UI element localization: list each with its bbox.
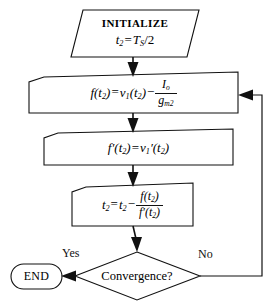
fp-rhs-close: )	[165, 140, 169, 155]
edge-f-to-fprime	[128, 113, 139, 133]
f-fraction: Iogm2	[155, 78, 176, 107]
f-frac-den-sub: m2	[164, 99, 173, 108]
node-update-t2-text: t2=t2−f(t2)f′(t2)	[72, 185, 193, 226]
u-equals: =	[110, 196, 119, 211]
u-frac-num-main: f(t	[140, 189, 151, 203]
f-frac-num-sub: o	[166, 84, 170, 93]
edge-decision-yes-end	[61, 271, 76, 282]
u-frac-den-close: )	[156, 205, 160, 219]
node-initialize-text: INITIALIZE t2=TS/2	[71, 12, 199, 54]
init-rhs: T	[133, 32, 140, 47]
f-rhs-v-tail: (t	[130, 84, 138, 99]
u-fraction: f(t2)f′(t2)	[136, 190, 163, 219]
f-lhs: f(t	[90, 84, 102, 99]
edge-update-to-decision	[131, 226, 142, 252]
f-fraction-denominator: gm2	[155, 93, 176, 108]
compute-f-equation: f(t2)=v1(t2)−Iogm2	[90, 79, 176, 108]
flowchart-canvas: INITIALIZE t2=TS/2 f(t2)=v1(t2)−Iogm2 f′…	[0, 0, 277, 306]
initialize-equation: t2=TS/2	[116, 32, 155, 48]
fp-equals: =	[131, 140, 140, 155]
compute-fprime-equation: f′(t2)=v1′(t2)	[108, 140, 169, 156]
node-compute-f-text: f(t2)=v1(t2)−Iogm2	[29, 74, 238, 113]
u-lhs-sub: 2	[106, 204, 110, 213]
edge-fprime-to-update	[128, 165, 139, 187]
end-label: END	[24, 269, 50, 284]
u-frac-num-tail: )	[155, 189, 159, 203]
u-fraction-numerator: f(t2)	[136, 190, 163, 204]
node-compute-fprime-text: f′(t2)=v1′(t2)	[44, 131, 233, 165]
branch-label-no: No	[198, 248, 213, 260]
u-fraction-denominator: f′(t2)	[136, 205, 163, 220]
f-fraction-numerator: Io	[155, 78, 176, 92]
fp-rhs-open: (t	[153, 140, 161, 155]
node-convergence-decision-text: Convergence?	[79, 266, 195, 286]
decision-label: Convergence?	[101, 269, 172, 284]
f-minus: −	[146, 84, 155, 99]
node-end-terminator-text: END	[11, 265, 62, 288]
f-equals: =	[110, 84, 119, 99]
update-t2-equation: t2=t2−f(t2)f′(t2)	[102, 191, 163, 220]
branch-label-yes: Yes	[62, 247, 79, 259]
u-minus: −	[127, 196, 136, 211]
initialize-title: INITIALIZE	[102, 17, 168, 29]
init-equals: =	[123, 32, 132, 47]
init-rhs-tail: /2	[144, 32, 154, 47]
